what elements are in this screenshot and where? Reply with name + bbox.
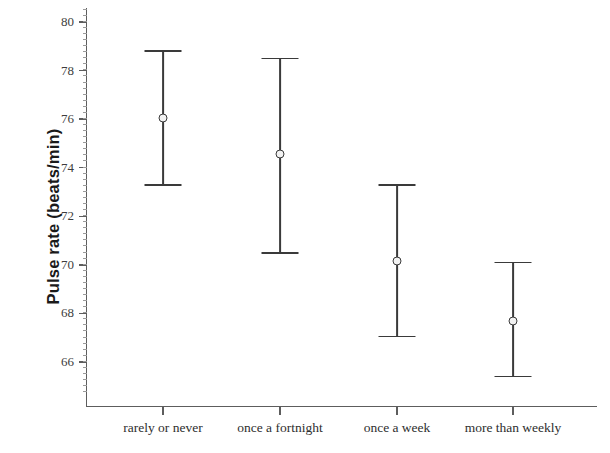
y-tick-minor xyxy=(83,167,87,168)
y-tick-label: 66 xyxy=(14,354,74,370)
y-tick-minor xyxy=(83,33,87,34)
y-tick-minor xyxy=(83,69,87,70)
y-tick-minor xyxy=(83,318,87,319)
y-tick-minor xyxy=(83,197,87,198)
y-tick-minor xyxy=(83,367,87,368)
y-tick-minor xyxy=(83,349,87,350)
errorbar-cap-lower xyxy=(262,252,299,254)
y-tick-minor xyxy=(83,27,87,28)
x-tick xyxy=(396,406,397,415)
y-tick-minor xyxy=(83,288,87,289)
data-point-marker xyxy=(276,150,285,159)
y-tick-minor xyxy=(83,130,87,131)
y-tick-minor xyxy=(83,136,87,137)
y-tick-label: 80 xyxy=(14,14,74,30)
x-tick xyxy=(512,406,513,415)
y-tick-label: 72 xyxy=(14,208,74,224)
y-tick-minor xyxy=(83,361,87,362)
y-tick-minor xyxy=(83,209,87,210)
y-tick-minor xyxy=(83,258,87,259)
y-tick-minor xyxy=(83,245,87,246)
data-point-marker xyxy=(509,316,518,325)
y-tick-minor xyxy=(83,179,87,180)
x-tick xyxy=(162,406,163,415)
y-tick-minor xyxy=(83,385,87,386)
y-tick-minor xyxy=(83,264,87,265)
x-tick-label-3: more than weekly xyxy=(438,420,588,436)
y-tick-minor xyxy=(83,391,87,392)
errorbar-cap-upper xyxy=(495,262,532,264)
y-tick-minor xyxy=(83,15,87,16)
errorbar-cap-lower xyxy=(379,336,416,338)
y-axis-line xyxy=(86,8,87,407)
y-tick-minor xyxy=(83,124,87,125)
y-tick-minor xyxy=(83,306,87,307)
y-tick-minor xyxy=(83,63,87,64)
y-tick-minor xyxy=(83,142,87,143)
y-tick-minor xyxy=(83,379,87,380)
errorbar-cap-upper xyxy=(379,184,416,186)
y-tick-minor xyxy=(83,203,87,204)
errorbar-cap-lower xyxy=(495,376,532,378)
y-tick-minor xyxy=(83,82,87,83)
y-tick-minor xyxy=(83,215,87,216)
y-tick-minor xyxy=(83,100,87,101)
y-tick-minor xyxy=(83,75,87,76)
y-tick-minor xyxy=(83,233,87,234)
y-tick-minor xyxy=(83,118,87,119)
y-tick-minor xyxy=(83,373,87,374)
y-tick-minor xyxy=(83,300,87,301)
data-point-marker xyxy=(159,113,168,122)
y-tick-minor xyxy=(83,227,87,228)
y-tick-minor xyxy=(83,160,87,161)
errorbar-cap-lower xyxy=(145,184,182,186)
y-tick-minor xyxy=(83,148,87,149)
y-tick-minor xyxy=(83,51,87,52)
y-tick-minor xyxy=(83,312,87,313)
y-tick-minor xyxy=(83,9,87,10)
y-tick-minor xyxy=(83,39,87,40)
y-tick-minor xyxy=(83,276,87,277)
y-tick-minor xyxy=(83,252,87,253)
y-tick-minor xyxy=(83,239,87,240)
y-tick-label: 74 xyxy=(14,160,74,176)
y-tick-minor xyxy=(83,45,87,46)
y-tick-minor xyxy=(83,21,87,22)
y-tick-minor xyxy=(83,282,87,283)
error-bar-chart: Pulse rate (beats/min) 6668707274767880 … xyxy=(0,0,610,453)
y-tick-label: 78 xyxy=(14,63,74,79)
y-tick-minor xyxy=(83,343,87,344)
y-tick-minor xyxy=(83,57,87,58)
y-tick-label: 70 xyxy=(14,257,74,273)
y-tick-minor xyxy=(83,154,87,155)
y-tick-minor xyxy=(83,185,87,186)
y-tick-minor xyxy=(83,94,87,95)
y-tick-label: 76 xyxy=(14,111,74,127)
x-tick xyxy=(279,406,280,415)
y-tick-minor xyxy=(83,330,87,331)
y-tick-label: 68 xyxy=(14,305,74,321)
y-tick-minor xyxy=(83,324,87,325)
errorbar-cap-upper xyxy=(262,58,299,60)
y-tick-minor xyxy=(83,337,87,338)
y-tick-minor xyxy=(83,294,87,295)
y-tick-minor xyxy=(83,191,87,192)
y-tick-minor xyxy=(83,88,87,89)
errorbar-cap-upper xyxy=(145,50,182,52)
y-tick-minor xyxy=(83,112,87,113)
data-point-marker xyxy=(393,257,402,266)
y-tick-minor xyxy=(83,221,87,222)
y-tick-minor xyxy=(83,106,87,107)
y-tick-minor xyxy=(83,355,87,356)
y-tick-minor xyxy=(83,270,87,271)
y-tick-minor xyxy=(83,173,87,174)
